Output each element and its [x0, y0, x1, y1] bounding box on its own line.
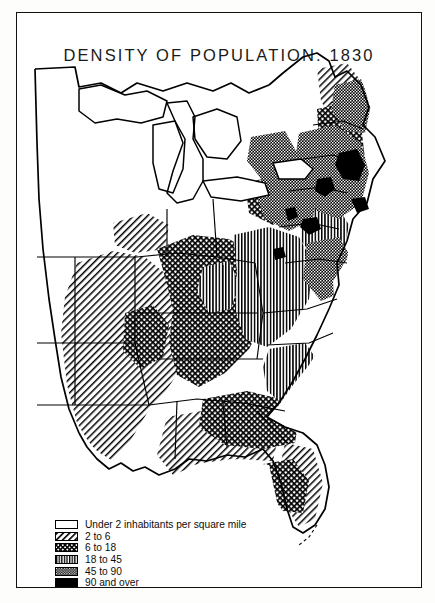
legend-item-6-to-18: 6 to 18 [55, 542, 285, 554]
legend-label-18-to-45: 18 to 45 [85, 554, 122, 565]
legend-swatch-blank [55, 520, 78, 529]
density-class-18to45 [197, 203, 349, 409]
legend-swatch-solid-black [55, 578, 78, 587]
map-frame: DENSITY OF POPULATION. 1830 [16, 12, 422, 588]
page-root: DENSITY OF POPULATION. 1830 [0, 0, 435, 603]
legend-label-under-2: Under 2 inhabitants per square mile [85, 519, 246, 530]
lake-michigan [153, 121, 185, 193]
legend-label-6-to-18: 6 to 18 [85, 542, 116, 553]
legend-swatch-dense-stipple [55, 567, 78, 576]
legend-item-under-2: Under 2 inhabitants per square mile [55, 519, 285, 531]
legend-item-90-and-over: 90 and over [55, 577, 285, 589]
population-density-map [17, 13, 420, 586]
lake-superior [79, 85, 167, 123]
lake-huron [193, 109, 241, 159]
legend-item-2-to-6: 2 to 6 [55, 531, 285, 543]
legend-item-18-to-45: 18 to 45 [55, 554, 285, 566]
legend-swatch-vertical-lines [55, 555, 78, 564]
offshore-dashed-line [299, 525, 317, 545]
map-geography [35, 53, 385, 545]
legend-item-45-to-90: 45 to 90 [55, 565, 285, 577]
legend-swatch-diagonal-hatch [55, 532, 78, 541]
legend-swatch-cross-hatch [55, 543, 78, 552]
legend-label-2-to-6: 2 to 6 [85, 531, 111, 542]
legend-label-90-and-over: 90 and over [85, 577, 139, 588]
legend-label-45-to-90: 45 to 90 [85, 566, 122, 577]
map-legend: Under 2 inhabitants per square mile 2 to… [55, 519, 285, 589]
